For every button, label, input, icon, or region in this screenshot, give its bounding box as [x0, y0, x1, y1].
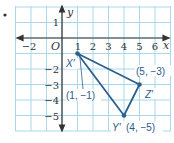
y-prime-name-label: Y′ — [112, 122, 122, 133]
y-tick: 1 — [53, 17, 59, 28]
x-prime-coord-label: (1, −1) — [66, 90, 95, 101]
x-tick: −2 — [22, 41, 37, 52]
y-tick: −5 — [44, 111, 59, 122]
vertex-y-prime — [122, 113, 127, 118]
x-tick: 4 — [121, 41, 127, 52]
z-prime-coord-label: (5, −3) — [136, 66, 165, 77]
x-tick: 3 — [105, 41, 111, 52]
vertex-x-prime — [75, 51, 80, 56]
y-axis-label: y — [66, 6, 74, 19]
x-axis-label: x — [163, 39, 170, 52]
y-tick: −4 — [44, 95, 59, 106]
x-tick-labels: −2 1 2 3 4 5 6 — [22, 41, 159, 52]
y-tick: −2 — [44, 64, 59, 75]
y-prime-coord-label: (4, −5) — [126, 122, 155, 133]
origin-label: O — [51, 40, 60, 53]
vertex-z-prime — [137, 82, 142, 87]
x-prime-name-label: X′ — [65, 58, 76, 69]
y-tick: −3 — [44, 80, 59, 91]
x-tick: 1 — [75, 41, 81, 52]
z-prime-name-label: Z′ — [144, 89, 154, 100]
x-axis-left-arrow-icon — [17, 36, 23, 41]
bullet-marker — [3, 13, 6, 16]
x-tick: 6 — [152, 41, 158, 52]
x-tick: 2 — [90, 41, 96, 52]
coordinate-plane: y x O −2 1 2 3 4 5 6 1 −2 −3 −4 −5 (5, −… — [0, 0, 174, 143]
x-tick: 5 — [136, 41, 142, 52]
y-axis-down-arrow-icon — [60, 125, 65, 131]
